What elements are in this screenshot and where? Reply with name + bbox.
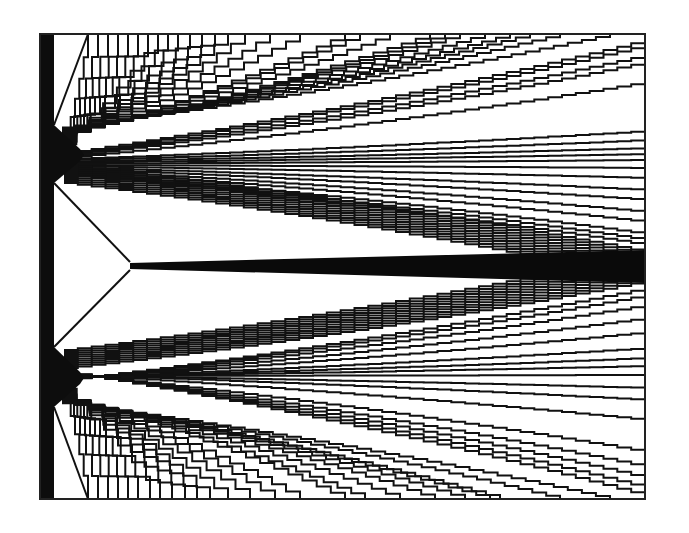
left-boundary-bar <box>40 34 54 499</box>
flow-line <box>64 375 645 376</box>
flow-line <box>54 270 130 347</box>
flow-line <box>54 183 130 262</box>
streamline-diagram <box>0 0 689 533</box>
central-band <box>130 250 645 283</box>
flow-line <box>64 372 645 496</box>
flow-line <box>54 407 88 499</box>
